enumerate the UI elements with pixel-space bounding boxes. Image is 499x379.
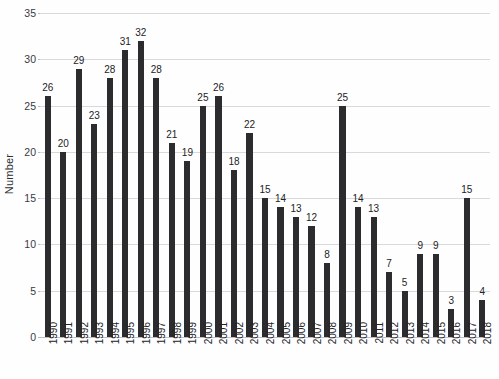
bar[interactable]	[339, 106, 345, 337]
x-axis-tick: 2009	[335, 337, 351, 379]
bar-slot: 23	[87, 13, 103, 337]
bar-slot: 15	[257, 13, 273, 337]
x-axis-tick: 2016	[443, 337, 459, 379]
bar[interactable]	[122, 50, 128, 337]
x-axis-tick: 2006	[288, 337, 304, 379]
bar-slot: 7	[381, 13, 397, 337]
x-axis-tick: 2018	[474, 337, 490, 379]
bar-slot: 31	[118, 13, 134, 337]
plot-area: 2620292328313228211925261822151413128251…	[40, 13, 490, 337]
x-axis-tick: 2013	[397, 337, 413, 379]
x-axis-tick: 1990	[40, 337, 56, 379]
bars-layer: 2620292328313228211925261822151413128251…	[40, 13, 490, 337]
x-axis-tick: 2012	[381, 337, 397, 379]
bar-slot: 9	[428, 13, 444, 337]
x-axis-tick: 2010	[350, 337, 366, 379]
bar[interactable]	[60, 152, 66, 337]
x-axis-tick: 1993	[87, 337, 103, 379]
bar-slot: 9	[412, 13, 428, 337]
bar[interactable]	[91, 124, 97, 337]
bar-slot: 13	[366, 13, 382, 337]
x-axis-tick: 1999	[180, 337, 196, 379]
bar[interactable]	[246, 133, 252, 337]
x-axis-tick: 2011	[366, 337, 382, 379]
bar[interactable]	[262, 198, 268, 337]
bar[interactable]	[200, 106, 206, 337]
bar-slot: 25	[195, 13, 211, 337]
bar-slot: 19	[180, 13, 196, 337]
bar-slot: 22	[242, 13, 258, 337]
bar[interactable]	[231, 170, 237, 337]
bar[interactable]	[184, 161, 190, 337]
y-axis-tick-label: 15	[10, 193, 36, 204]
x-axis-tick: 2002	[226, 337, 242, 379]
x-axis-tick-label: 2018	[482, 320, 493, 360]
x-axis-tick-labels: 1990199119921993199419951996199719981999…	[40, 337, 490, 379]
x-axis-tick: 2001	[211, 337, 227, 379]
bar[interactable]	[371, 217, 377, 337]
bar[interactable]	[293, 217, 299, 337]
bar-slot: 29	[71, 13, 87, 337]
bar-slot: 12	[304, 13, 320, 337]
bar-slot: 14	[273, 13, 289, 337]
x-axis-tick: 1992	[71, 337, 87, 379]
x-axis-tick: 2014	[412, 337, 428, 379]
y-axis-tick-label: 20	[10, 147, 36, 158]
y-axis-tick-label: 30	[10, 54, 36, 65]
bar[interactable]	[215, 96, 221, 337]
bar[interactable]	[355, 207, 361, 337]
bar-slot: 28	[149, 13, 165, 337]
x-axis-tick: 2017	[459, 337, 475, 379]
y-axis-tick-labels: 05101520253035	[4, 13, 36, 337]
bar-slot: 4	[474, 13, 490, 337]
bar-slot: 21	[164, 13, 180, 337]
bar[interactable]	[107, 78, 113, 337]
bar-slot: 28	[102, 13, 118, 337]
x-axis-tick: 1994	[102, 337, 118, 379]
x-axis-tick: 2007	[304, 337, 320, 379]
bar-slot: 26	[40, 13, 56, 337]
bar[interactable]	[277, 207, 283, 337]
y-axis-tick-label: 10	[10, 239, 36, 250]
bar[interactable]	[153, 78, 159, 337]
x-axis-tick: 2003	[242, 337, 258, 379]
y-axis-tick-label: 0	[10, 332, 36, 343]
bar-value-label: 4	[469, 287, 495, 297]
bar[interactable]	[76, 69, 82, 337]
bar-slot: 8	[319, 13, 335, 337]
bar-slot: 13	[288, 13, 304, 337]
bar[interactable]	[45, 96, 51, 337]
y-axis-tick-label: 35	[10, 8, 36, 19]
x-axis-tick: 1996	[133, 337, 149, 379]
bar-slot: 14	[350, 13, 366, 337]
x-axis-tick: 1998	[164, 337, 180, 379]
bar-slot: 18	[226, 13, 242, 337]
x-axis-tick: 1995	[118, 337, 134, 379]
bar-slot: 5	[397, 13, 413, 337]
bar-slot: 26	[211, 13, 227, 337]
x-axis-tick: 2008	[319, 337, 335, 379]
bar[interactable]	[464, 198, 470, 337]
y-axis-tick-label: 25	[10, 101, 36, 112]
bar-chart: Number 05101520253035 262029232831322821…	[0, 0, 499, 379]
x-axis-tick: 2000	[195, 337, 211, 379]
x-axis-tick: 2004	[257, 337, 273, 379]
x-axis-tick: 2005	[273, 337, 289, 379]
bar[interactable]	[169, 143, 175, 337]
bar-slot: 32	[133, 13, 149, 337]
y-axis-tick-label: 5	[10, 286, 36, 297]
x-axis-tick: 1991	[56, 337, 72, 379]
bar-slot: 25	[335, 13, 351, 337]
x-axis-tick: 1997	[149, 337, 165, 379]
bar[interactable]	[138, 41, 144, 337]
x-axis-tick: 2015	[428, 337, 444, 379]
bar-slot: 3	[443, 13, 459, 337]
